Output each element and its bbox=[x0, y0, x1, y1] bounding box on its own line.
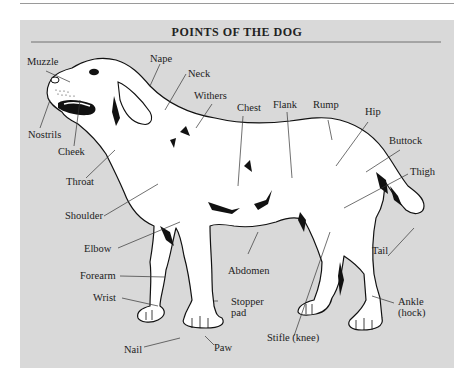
label-ankle-line1: Ankle bbox=[398, 296, 424, 307]
label-throat: Throat bbox=[66, 176, 94, 187]
label-elbow: Elbow bbox=[84, 243, 111, 254]
label-abdomen: Abdomen bbox=[228, 265, 269, 276]
label-stopper-pad-line1: Stopper bbox=[231, 296, 264, 307]
label-muzzle: Muzzle bbox=[27, 56, 59, 67]
label-neck: Neck bbox=[188, 68, 210, 79]
label-withers: Withers bbox=[194, 90, 227, 101]
label-wrist: Wrist bbox=[93, 292, 116, 303]
label-thigh: Thigh bbox=[410, 166, 435, 177]
label-stifle: Stifle (knee) bbox=[267, 332, 319, 343]
label-nape: Nape bbox=[150, 53, 172, 64]
label-buttock: Buttock bbox=[389, 135, 422, 146]
label-stopper-pad-line2: pad bbox=[231, 307, 246, 318]
label-paw: Paw bbox=[214, 342, 232, 353]
label-tail: Tail bbox=[372, 245, 388, 256]
label-ankle-line2: (hock) bbox=[398, 307, 425, 318]
label-forearm: Forearm bbox=[80, 270, 116, 281]
label-cheek: Cheek bbox=[58, 146, 85, 157]
label-hip: Hip bbox=[365, 106, 381, 117]
label-flank: Flank bbox=[273, 99, 297, 110]
label-chest: Chest bbox=[237, 102, 261, 113]
diagram-title: POINTS OF THE DOG bbox=[20, 25, 454, 40]
label-nostrils: Nostrils bbox=[28, 129, 61, 140]
label-rump: Rump bbox=[313, 99, 339, 110]
label-shoulder: Shoulder bbox=[65, 210, 103, 221]
label-nail: Nail bbox=[124, 344, 142, 355]
